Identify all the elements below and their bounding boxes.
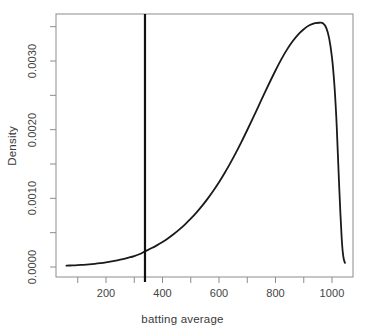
- x-tick-label: 1000: [320, 287, 345, 299]
- x-axis-ticks: [78, 277, 332, 283]
- y-tick-label: 0.0010: [26, 181, 38, 215]
- x-tick-label: 600: [210, 287, 229, 299]
- density-plot-figure: 2004006008001000 0.00000.00100.00200.003…: [0, 0, 365, 336]
- x-tick-label: 200: [97, 287, 116, 299]
- density-curve: [66, 23, 345, 266]
- plot-canvas: [0, 0, 365, 336]
- y-axis-title: Density: [6, 126, 18, 166]
- density-curve-group: [66, 23, 345, 266]
- y-tick-label: 0.0030: [26, 44, 38, 78]
- plot-box: [56, 14, 353, 277]
- x-axis-title: batting average: [0, 313, 365, 325]
- x-tick-label: 400: [153, 287, 172, 299]
- y-tick-label: 0.0020: [26, 113, 38, 147]
- x-tick-label: 800: [266, 287, 285, 299]
- y-axis-ticks: [50, 27, 56, 267]
- y-tick-label: 0.0000: [26, 250, 38, 284]
- plot-border: [56, 14, 353, 277]
